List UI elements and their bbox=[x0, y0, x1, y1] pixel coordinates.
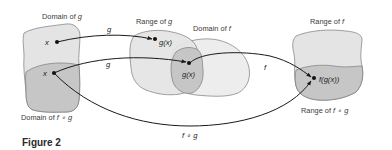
point-fgx bbox=[312, 76, 316, 80]
domain-of-fog-set bbox=[26, 63, 80, 112]
label-domain-of-g: Domain of g bbox=[42, 12, 83, 21]
label-domain-of-fog: Domain of f ∘ g bbox=[21, 113, 73, 122]
point-x-bottom bbox=[52, 71, 56, 75]
point-x-top bbox=[55, 40, 59, 44]
label-range-of-f: Range of f bbox=[310, 17, 345, 26]
label-range-of-g: Range of g bbox=[136, 17, 173, 26]
label-gx-mid: g(x) bbox=[182, 70, 196, 79]
figure-caption: Figure 2 bbox=[22, 137, 61, 148]
function-composition-diagram: x x g(x) g(x) f(g(x)) g g f f ∘ g Domain… bbox=[0, 0, 392, 150]
label-range-of-fog: Range of f ∘ g bbox=[301, 106, 349, 115]
point-gx-top bbox=[153, 37, 157, 41]
label-domain-of-f: Domain of f bbox=[193, 24, 232, 33]
label-gx-top: g(x) bbox=[159, 38, 173, 47]
label-fgx: f(g(x)) bbox=[319, 75, 340, 84]
label-arrow-f: f bbox=[264, 63, 267, 72]
label-arrow-g-bottom: g bbox=[106, 60, 111, 69]
point-gx-mid bbox=[187, 61, 191, 65]
label-arrow-fog: f ∘ g bbox=[182, 131, 198, 140]
label-arrow-g-top: g bbox=[107, 25, 112, 34]
